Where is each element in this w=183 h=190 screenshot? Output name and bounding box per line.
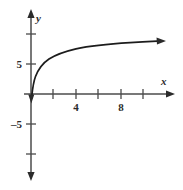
y-axis-bottom-arrow-icon bbox=[27, 172, 34, 181]
x-tick-label-4: 4 bbox=[73, 101, 79, 113]
y-axis-variable-label: y bbox=[34, 12, 41, 24]
plot-canvas: y x 5 –5 4 8 bbox=[0, 0, 183, 190]
x-axis-group bbox=[24, 89, 175, 99]
curve-right-arrow-icon bbox=[157, 38, 167, 45]
y-tick-label-5: 5 bbox=[17, 58, 23, 70]
y-tick-label-neg5: –5 bbox=[10, 118, 23, 130]
x-tick-label-8: 8 bbox=[118, 101, 124, 113]
logarithmic-curve bbox=[32, 41, 158, 98]
x-axis-variable-label: x bbox=[160, 75, 167, 87]
log-function-graph: y x 5 –5 4 8 bbox=[0, 0, 183, 190]
y-axis-top-arrow-icon bbox=[27, 9, 34, 18]
x-axis-right-arrow-icon bbox=[166, 90, 175, 97]
curve-origin-marker-icon bbox=[28, 95, 34, 104]
